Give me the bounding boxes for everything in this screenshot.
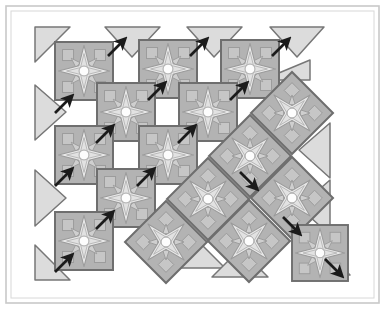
tiling-diagram-canvas: Tiling transformation diagram Square til… (0, 0, 385, 309)
tiling-diagram-root: Tiling transformation diagram Square til… (0, 0, 385, 309)
